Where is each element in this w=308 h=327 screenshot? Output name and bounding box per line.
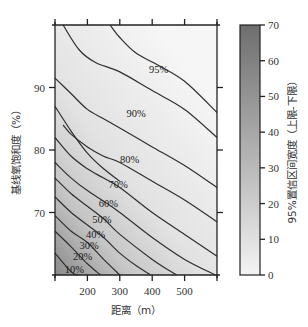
colorbar-tick-label: 10 [268, 233, 280, 245]
y-tick-label: 90 [34, 82, 46, 94]
x-tick-label: 500 [176, 285, 193, 297]
contour-label: 50% [92, 214, 112, 225]
contour-label: 10% [65, 264, 85, 275]
x-tick-label: 200 [79, 285, 96, 297]
plot-background [55, 25, 217, 275]
colorbar-tick-label: 60 [268, 55, 280, 67]
contour-label: 60% [99, 198, 119, 209]
colorbar-tick-label: 20 [268, 198, 280, 210]
contour-label: 40% [86, 229, 106, 240]
colorbar: 010203040506070 95%置信区间宽度（上限-下限） [240, 19, 298, 281]
plot-area: 10%20%30%40%50%60%70%80%90%95% [55, 25, 217, 275]
contour-label: 90% [126, 108, 146, 119]
colorbar-fill [240, 25, 260, 275]
colorbar-tick-label: 50 [268, 90, 280, 102]
contour-label: 30% [79, 240, 99, 251]
y-tick-label: 70 [34, 207, 46, 219]
colorbar-tick-label: 30 [268, 162, 280, 174]
contour-label: 70% [109, 179, 129, 190]
contour-label: 20% [73, 251, 93, 262]
colorbar-tick-label: 70 [268, 19, 280, 31]
y-tick-label: 80 [34, 144, 46, 156]
colorbar-tick-label: 40 [268, 126, 280, 138]
y-axis-title: 基线氧饱和度（%） [10, 105, 22, 195]
contour-label: 80% [120, 154, 140, 165]
x-axis-title: 距离（m） [111, 304, 161, 316]
contour-chart: 10%20%30%40%50%60%70%80%90%95% 200300400… [0, 0, 308, 327]
x-tick-label: 400 [144, 285, 161, 297]
x-tick-label: 300 [112, 285, 129, 297]
colorbar-tick-label: 0 [268, 269, 274, 281]
colorbar-ticks: 010203040506070 [260, 19, 280, 281]
contour-label: 95% [149, 64, 169, 75]
colorbar-title: 95%置信区间宽度（上限-下限） [286, 76, 298, 223]
